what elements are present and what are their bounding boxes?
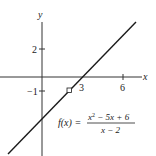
function-graph: y x 2 −1 3 6 f(x) = x2 − 5x + 6 x − 2 bbox=[0, 0, 156, 156]
formula-denominator: x − 2 bbox=[100, 125, 121, 135]
y-axis-label: y bbox=[37, 9, 43, 20]
function-formula: f(x) = x2 − 5x + 6 x − 2 bbox=[58, 112, 135, 135]
y-tick-label-neg1: −1 bbox=[27, 86, 38, 97]
formula-lhs: f(x) = bbox=[58, 117, 81, 129]
y-tick-label-2: 2 bbox=[32, 44, 37, 55]
formula-numerator: x2 − 5x + 6 bbox=[87, 112, 130, 122]
x-tick-label-3: 3 bbox=[79, 82, 84, 93]
x-tick-label-6: 6 bbox=[120, 82, 125, 93]
hole-marker bbox=[67, 88, 72, 93]
x-axis-label: x bbox=[142, 71, 148, 82]
